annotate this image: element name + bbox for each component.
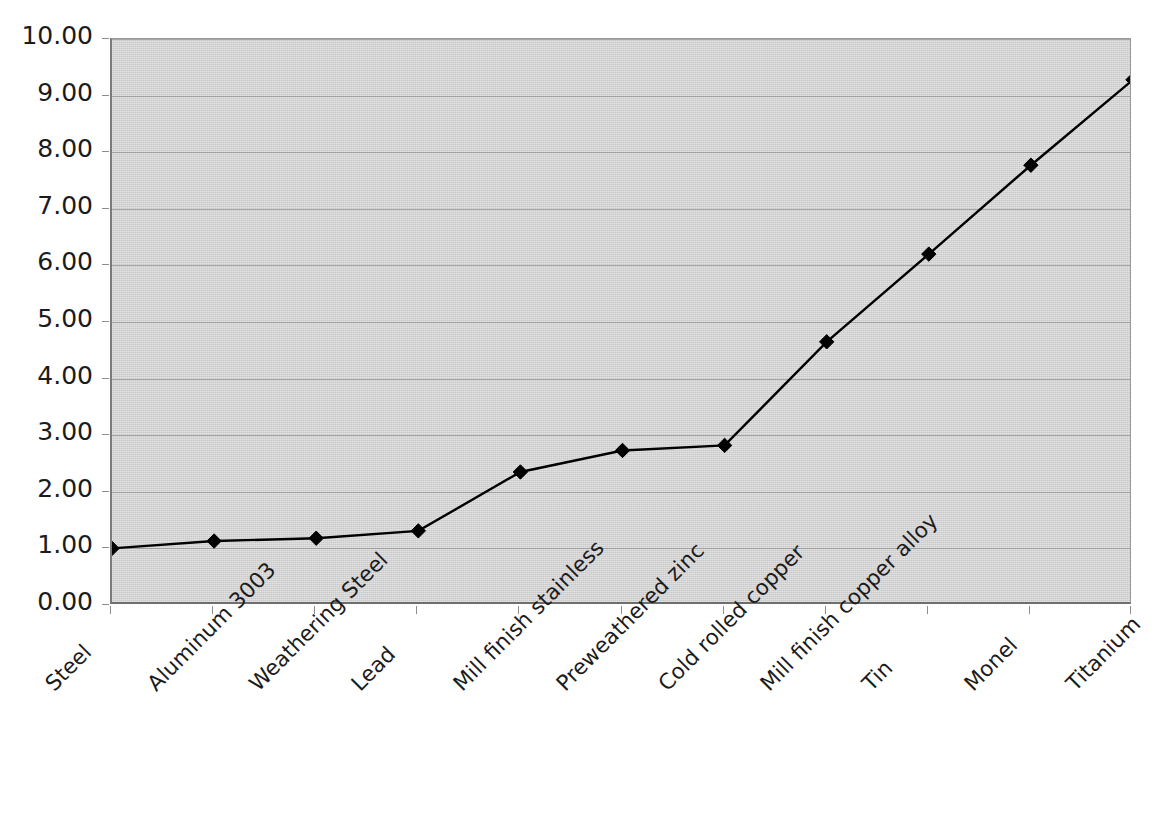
series-polyline — [112, 80, 1131, 549]
y-axis-tick-mark — [102, 378, 109, 379]
y-axis-tick-mark — [102, 38, 109, 39]
x-axis-tick-mark — [416, 606, 417, 614]
plot-area — [110, 38, 1131, 604]
x-axis-tick-label: Steel — [40, 639, 96, 695]
data-point-marker — [309, 531, 323, 545]
y-axis-tick-mark — [102, 208, 109, 209]
data-point-marker — [110, 541, 119, 555]
x-axis-tick-label: Tin — [857, 655, 897, 695]
x-axis-tick-mark — [110, 606, 111, 614]
y-axis-tick-mark — [102, 321, 109, 322]
line-chart: 10.009.008.007.006.005.004.003.002.001.0… — [0, 0, 1163, 833]
data-point-marker — [411, 524, 425, 538]
y-axis-tick-label: 2.00 — [0, 474, 93, 503]
y-axis-tick-label: 8.00 — [0, 134, 93, 163]
y-axis-tick-mark — [102, 491, 109, 492]
data-point-marker — [513, 465, 527, 479]
y-axis-tick-label: 1.00 — [0, 530, 93, 559]
y-axis-tick-mark — [102, 547, 109, 548]
data-point-marker — [207, 534, 221, 548]
x-axis-tick-mark — [927, 606, 928, 614]
y-axis-tick-mark — [102, 434, 109, 435]
y-axis-tick-mark — [102, 604, 109, 605]
y-axis-tick-label: 0.00 — [0, 587, 93, 616]
y-axis-tick-mark — [102, 264, 109, 265]
series-line — [112, 39, 1131, 604]
x-axis-tick-label: Monel — [959, 632, 1022, 695]
y-axis-tick-label: 4.00 — [0, 361, 93, 390]
y-axis-tick-label: 3.00 — [0, 417, 93, 446]
y-axis-tick-label: 10.00 — [0, 21, 93, 50]
y-axis-tick-label: 7.00 — [0, 191, 93, 220]
y-axis-tick-mark — [102, 95, 109, 96]
y-axis-tick-mark — [102, 151, 109, 152]
x-axis-tick-mark — [1130, 606, 1131, 614]
y-axis-tick-label: 9.00 — [0, 78, 93, 107]
x-axis-tick-mark — [1029, 606, 1030, 614]
y-axis-tick-label: 5.00 — [0, 304, 93, 333]
series-markers — [110, 73, 1131, 556]
x-axis-tick-label: Titanium — [1061, 611, 1145, 695]
x-axis-tick-label: Lead — [346, 641, 400, 695]
y-axis-tick-label: 6.00 — [0, 247, 93, 276]
data-point-marker — [615, 443, 629, 457]
